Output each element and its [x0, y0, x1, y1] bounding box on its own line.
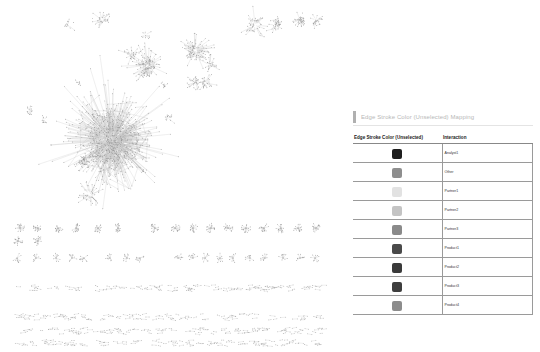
- network-edges: [13, 6, 326, 346]
- interaction-label: Partner3: [442, 220, 533, 239]
- mapping-table: Edge Stroke Color (Unselected) Interacti…: [353, 132, 533, 315]
- interaction-label: Partner1: [442, 182, 533, 201]
- interaction-label: Product3: [442, 277, 533, 296]
- interaction-label: Product4: [442, 296, 533, 315]
- color-cell[interactable]: [353, 277, 442, 296]
- column-header-color: Edge Stroke Color (Unselected): [353, 132, 442, 144]
- color-cell[interactable]: [353, 201, 442, 220]
- legend-title-accent: [353, 111, 356, 123]
- color-cell[interactable]: [353, 258, 442, 277]
- legend-header: Edge Stroke Color (Unselected) Mapping: [353, 110, 533, 126]
- edge-color-mapping-legend: Edge Stroke Color (Unselected) Mapping E…: [353, 110, 533, 315]
- interaction-label: Product1: [442, 239, 533, 258]
- network-view[interactable]: [0, 0, 335, 352]
- color-swatch[interactable]: [392, 301, 402, 311]
- mapping-rows: Analyst1OtherPartner1Partner2Partner3Pro…: [353, 144, 533, 315]
- color-cell[interactable]: [353, 144, 442, 163]
- color-swatch[interactable]: [392, 225, 402, 235]
- column-header-interaction: Interaction: [442, 132, 533, 144]
- interaction-label: Product2: [442, 258, 533, 277]
- color-swatch[interactable]: [392, 187, 402, 197]
- table-row[interactable]: Partner3: [353, 220, 533, 239]
- table-row[interactable]: Product1: [353, 239, 533, 258]
- table-row[interactable]: Product2: [353, 258, 533, 277]
- table-row[interactable]: Product3: [353, 277, 533, 296]
- color-swatch[interactable]: [392, 206, 402, 216]
- interaction-label: Other: [442, 163, 533, 182]
- table-header-row: Edge Stroke Color (Unselected) Interacti…: [353, 132, 533, 144]
- color-swatch[interactable]: [392, 282, 402, 292]
- table-row[interactable]: Analyst1: [353, 144, 533, 163]
- color-cell[interactable]: [353, 296, 442, 315]
- table-row[interactable]: Other: [353, 163, 533, 182]
- color-swatch[interactable]: [392, 149, 402, 159]
- color-swatch[interactable]: [392, 244, 402, 254]
- table-row[interactable]: Partner1: [353, 182, 533, 201]
- interaction-label: Partner2: [442, 201, 533, 220]
- color-cell[interactable]: [353, 239, 442, 258]
- color-swatch[interactable]: [392, 168, 402, 178]
- table-row[interactable]: Partner2: [353, 201, 533, 220]
- legend-title: Edge Stroke Color (Unselected) Mapping: [361, 114, 474, 120]
- color-swatch[interactable]: [392, 263, 402, 273]
- interaction-label: Analyst1: [442, 144, 533, 163]
- color-cell[interactable]: [353, 220, 442, 239]
- table-row[interactable]: Product4: [353, 296, 533, 315]
- network-nodes: [13, 6, 327, 347]
- color-cell[interactable]: [353, 163, 442, 182]
- color-cell[interactable]: [353, 182, 442, 201]
